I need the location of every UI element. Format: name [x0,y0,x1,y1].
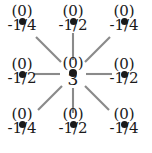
edge-center-top-right [85,37,110,62]
node-coefficient-middle-right: -1/2 [109,71,138,86]
node-coefficient-top-left: -1/4 [7,18,36,33]
edge-center-bottom-left [38,86,62,110]
node-coefficient-bottom-right: -1/4 [109,121,138,136]
edge-center-bottom-right [85,86,109,110]
node-coefficient-middle-left: -1/2 [7,71,36,86]
stencil-diagram: (0)-1/4(0)-1/2(0)-1/4(0)-1/2(0)3(0)-1/2(… [0,0,152,153]
node-coefficient-top-center: -1/2 [58,18,87,33]
node-coefficient-bottom-center: -1/2 [58,121,87,136]
node-coefficient-center: 3 [68,71,79,88]
edge-center-top-left [36,37,61,62]
node-coefficient-top-right: -1/4 [109,18,138,33]
node-coefficient-bottom-left: -1/4 [7,121,36,136]
